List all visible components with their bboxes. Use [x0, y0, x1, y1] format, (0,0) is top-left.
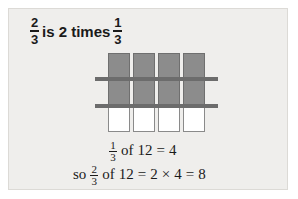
fraction-denominator: 3: [92, 176, 98, 187]
grid-cell-unshaded: [158, 107, 180, 132]
grid-cell-shaded: [108, 80, 130, 105]
equation-token-unit-value: 4: [174, 166, 182, 183]
grid-cell-shaded: [183, 80, 205, 105]
fraction-denominator: 3: [110, 152, 116, 163]
equation-token-result: 4: [169, 142, 177, 159]
lower-divider-rule: [95, 104, 218, 108]
squares-grid: [108, 53, 205, 132]
equation-token-equals: =: [157, 142, 165, 159]
fraction-numerator: 2: [31, 16, 38, 30]
equation-token-so: so: [73, 166, 86, 183]
fraction-numerator: 2: [92, 164, 98, 175]
grid-cell-shaded: [133, 53, 155, 78]
upper-divider-rule: [95, 77, 218, 81]
equation-token-equals: =: [138, 166, 146, 183]
grid-cell-shaded: [133, 80, 155, 105]
equation-token-equals-second: =: [186, 166, 194, 183]
equation-fraction-two-thirds: 2 3: [90, 164, 98, 187]
figure-panel: 2 3 is 2 times 1 3: [8, 8, 288, 190]
fraction-numerator: 1: [114, 16, 121, 30]
squares-diagram: [108, 53, 207, 136]
headline-statement: 2 3 is 2 times 1 3: [30, 17, 122, 45]
equation-fraction-one-third: 1 3: [109, 140, 117, 163]
fraction-denominator: 3: [114, 32, 121, 46]
equation-token-whole: 12: [138, 142, 153, 159]
grid-cell-unshaded: [133, 107, 155, 132]
grid-cell-shaded: [108, 53, 130, 78]
unit-fraction-equation: 1 3 of 12 = 4: [109, 140, 176, 160]
fraction-denominator: 3: [31, 32, 38, 46]
headline-middle-text: is 2 times: [42, 23, 110, 40]
equation-token-multiplier: 2: [150, 166, 158, 183]
equation-token-times-symbol: ×: [162, 166, 170, 183]
equation-token-whole: 12: [119, 166, 134, 183]
fraction-numerator: 1: [110, 140, 116, 151]
scaled-fraction-equation: so 2 3 of 12 = 2 × 4 = 8: [73, 164, 206, 184]
equation-token-of: of: [121, 142, 134, 159]
headline-fraction-one-third: 1 3: [113, 16, 122, 46]
equation-token-result: 8: [198, 166, 206, 183]
grid-cell-shaded: [158, 53, 180, 78]
grid-cell-shaded: [183, 53, 205, 78]
headline-fraction-two-thirds: 2 3: [30, 16, 39, 46]
grid-cell-shaded: [158, 80, 180, 105]
grid-cell-unshaded: [108, 107, 130, 132]
equation-token-of: of: [102, 166, 115, 183]
grid-cell-unshaded: [183, 107, 205, 132]
